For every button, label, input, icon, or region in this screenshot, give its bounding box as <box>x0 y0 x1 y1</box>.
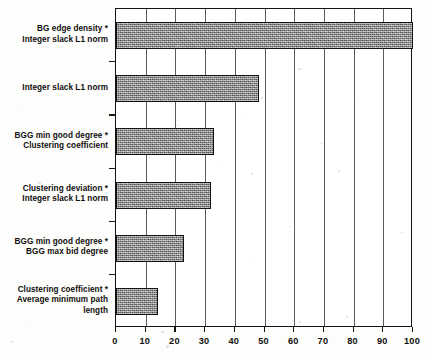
y-axis-tick <box>109 221 115 222</box>
gridline-60 <box>294 9 295 326</box>
category-label: BGG min good degree * Clustering coeffic… <box>0 131 108 151</box>
plot-area <box>115 8 412 327</box>
y-axis-tick <box>109 114 115 115</box>
y-axis-tick <box>109 61 115 62</box>
y-axis-tick <box>109 274 115 275</box>
category-label: Clustering coefficient * Average minimum… <box>0 285 108 316</box>
category-label: Integer slack L1 norm <box>0 83 108 93</box>
x-axis-tick <box>174 327 175 332</box>
gridline-90 <box>383 9 384 326</box>
speckle <box>27 323 28 324</box>
speckle <box>19 109 20 110</box>
bar <box>116 182 211 209</box>
speckle <box>358 97 359 98</box>
speckle <box>64 285 66 287</box>
gridline-20 <box>175 9 176 326</box>
gridline-40 <box>235 9 236 326</box>
speckle <box>401 232 402 233</box>
x-axis-tick <box>293 327 294 332</box>
speckle <box>161 331 163 333</box>
gridline-0 <box>116 9 117 326</box>
x-axis-tick <box>382 327 383 332</box>
speckle <box>251 257 252 258</box>
speckle <box>166 345 168 347</box>
x-axis-tick <box>264 327 265 332</box>
bar-chart: BG edge density * Integer slack L1 normI… <box>0 0 425 358</box>
x-axis-tick <box>234 327 235 332</box>
x-axis-tick <box>412 327 413 332</box>
y-axis-category-labels: BG edge density * Integer slack L1 normI… <box>0 0 110 358</box>
category-label: Clustering deviation * Integer slack L1 … <box>0 184 108 204</box>
gridline-30 <box>205 9 206 326</box>
speckle <box>149 156 151 158</box>
x-axis-tick <box>323 327 324 332</box>
gridline-50 <box>265 9 266 326</box>
x-axis-tick <box>353 327 354 332</box>
speckle <box>176 45 178 47</box>
gridline-100 <box>413 9 414 326</box>
bar <box>116 128 214 155</box>
bar <box>116 288 158 315</box>
category-label: BGG min good degree * BGG max bid degree <box>0 237 108 257</box>
speckle <box>346 316 348 318</box>
x-axis-tick <box>204 327 205 332</box>
y-axis-tick <box>109 168 115 169</box>
bar <box>116 75 259 102</box>
speckle <box>251 173 253 175</box>
gridline-80 <box>354 9 355 326</box>
x-axis-tick <box>115 327 116 332</box>
gridline-70 <box>324 9 325 326</box>
gridline-10 <box>146 9 147 326</box>
bar <box>116 22 413 49</box>
speckle <box>242 114 243 115</box>
category-label: BG edge density * Integer slack L1 norm <box>0 24 108 44</box>
x-axis-tick <box>145 327 146 332</box>
bar <box>116 235 184 262</box>
x-axis-tick-label: 100 <box>395 336 425 346</box>
